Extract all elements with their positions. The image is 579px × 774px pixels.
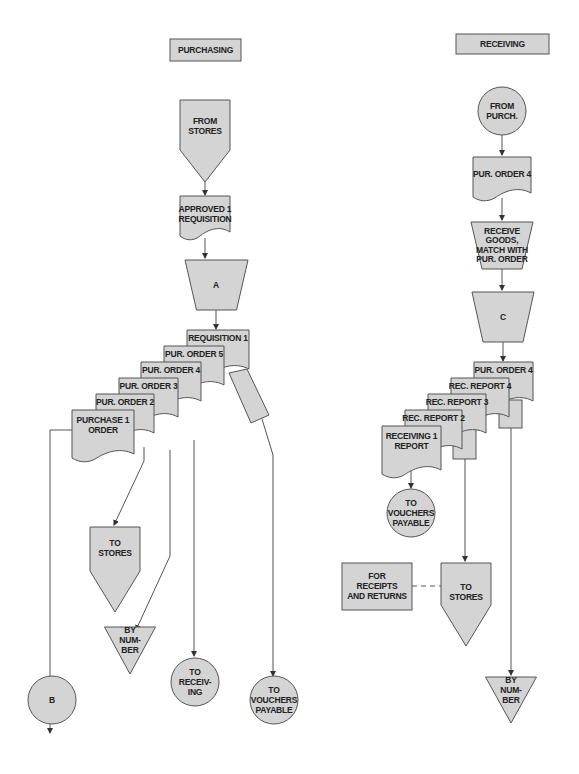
purchase-order-3-label: PUR. ORDER 3 [119,381,178,391]
from-stores-text: STORES [188,126,222,136]
to-vouchers-payable-receiving-text: PAYABLE [392,518,430,528]
by-number-receiving-text: BER [502,695,519,705]
purchasing-header-text: PURCHASING [178,45,234,55]
file-c-label: C [500,312,506,322]
connector-b-label: B [49,695,55,705]
for-receipts-and-returns-text: AND RETURNS [347,591,407,601]
purchase-order-2-text: PUR. ORDER 2 [96,397,155,407]
flowchart-canvas: PURCHASINGFROMSTORESAPPROVED 1REQUISITIO… [0,0,579,774]
file-c-text: C [500,312,506,322]
to-stores-receiving-text: TO [460,582,472,592]
purchase-order-2-label: PUR. ORDER 2 [96,397,155,407]
pur-order-4-stack-label: PUR. ORDER 4 [474,365,533,375]
from-stores-text: FROM [193,116,217,126]
connector-b-text: B [49,695,55,705]
purchase-order-4-label: PUR. ORDER 4 [142,365,201,375]
shapes-layer: PURCHASINGFROMSTORESAPPROVED 1REQUISITIO… [28,34,549,724]
line-to-vouchers-payable [262,419,273,676]
requisition-1-text: REQUISITION 1 [188,333,248,343]
receive-goods-text: RECEIVE [484,226,520,236]
for-receipts-and-returns-text: FOR [368,571,385,581]
file-a-label: A [213,280,219,290]
approved-requisition-text: APPROVED 1 [179,204,232,214]
from-purch-label: FROMPURCH. [486,101,517,121]
by-number-text: BY [124,625,136,635]
line-to-by-number [136,450,170,630]
to-vouchers-payable-text: VOUCHERS [251,695,298,705]
from-purch-text: FROM [490,101,514,111]
line-to-stores [114,447,144,525]
receiving-report-1-stack-text: RECEIVING 1 [386,431,438,441]
rec-report-3-stack-text: REC. REPORT 3 [426,397,489,407]
receive-goods-text: GOODS, [486,235,519,245]
requisition-1-label: REQUISITION 1 [188,333,248,343]
by-number-text: BER [121,645,138,655]
by-number-receiving-text: NUM- [500,685,522,695]
to-receiving-text: TO [189,667,201,677]
by-number-receiving-text: BY [505,675,517,685]
for-receipts-and-returns-text: RECEIPTS [357,581,398,591]
pur-order-4-label: PUR. ORDER 4 [473,169,532,179]
by-number-text: NUM- [119,635,141,645]
receiving-report-1-stack-text: REPORT [394,441,429,451]
rec-report-3-stack-label: REC. REPORT 3 [426,397,489,407]
file-a-text: A [213,280,219,290]
purchase-order-4-text: PUR. ORDER 4 [142,365,201,375]
to-receiving-text: RECEIV- [179,677,212,687]
to-vouchers-payable-text: TO [268,685,280,695]
purchase-order-5-label: PUR. ORDER 5 [165,349,224,359]
receiving-header-label: RECEIVING [480,39,526,49]
purchasing-header-label: PURCHASING [178,45,234,55]
requisition-detached-copy[interactable] [229,369,269,423]
receiving-header-text: RECEIVING [480,39,526,49]
rec-report-2-stack-text: REC. REPORT 2 [402,413,465,423]
rec-report-4-stack-label: REC. REPORT 4 [449,381,512,391]
from-stores-offpage[interactable] [180,100,230,182]
pur-order-4-stack-text: PUR. ORDER 4 [474,365,533,375]
to-vouchers-payable-receiving-text: VOUCHERS [388,508,435,518]
rec-report-4-stack-text: REC. REPORT 4 [449,381,512,391]
approved-requisition-text: REQUISITION [178,214,231,224]
to-vouchers-payable-receiving-text: TO [405,498,417,508]
pur-order-4-text: PUR. ORDER 4 [473,169,532,179]
to-stores-text: STORES [98,548,132,558]
from-purch-text: PURCH. [486,111,517,121]
receive-goods-text: MATCH WITH [476,245,528,255]
to-receiving-text: ING [188,687,203,697]
approved-requisition-label: APPROVED 1REQUISITION [178,204,231,224]
receive-goods-text: PUR. ORDER [476,254,527,264]
to-stores-receiving-offpage[interactable] [441,563,491,646]
to-stores-text: TO [109,538,121,548]
purchase-order-3-text: PUR. ORDER 3 [119,381,178,391]
purchase-order-1-text: ORDER [88,425,118,435]
rec-report-2-stack-label: REC. REPORT 2 [402,413,465,423]
to-vouchers-payable-text: PAYABLE [255,705,293,715]
purchase-order-1-text: PURCHASE 1 [77,415,130,425]
purchase-order-5-text: PUR. ORDER 5 [165,349,224,359]
to-stores-receiving-text: STORES [449,592,483,602]
